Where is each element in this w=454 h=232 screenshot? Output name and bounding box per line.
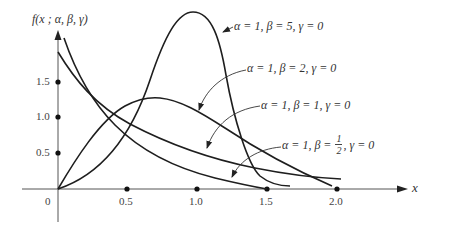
arrow-beta-5 — [223, 27, 233, 32]
annotation-beta-1: α = 1, β = 1, γ = 0 — [261, 98, 350, 113]
fraction-numerator: 1 — [335, 133, 342, 145]
annotation-beta-half-prefix: α = 1, β = — [282, 138, 334, 152]
fraction-one-half: 12 — [335, 133, 342, 156]
annotation-beta-half: α = 1, β = 12, γ = 0 — [282, 133, 374, 156]
chart-canvas — [0, 0, 454, 232]
x-tick-dot-2.0 — [334, 186, 339, 191]
annotation-beta-2: α = 1, β = 2, γ = 0 — [247, 61, 336, 76]
y-axis-label: f(x ; α, β, γ) — [32, 12, 88, 27]
arrow-beta-2 — [199, 70, 246, 110]
axes — [22, 30, 408, 222]
y-tick-label-0.5: 0.5 — [36, 146, 50, 158]
x-tick-label-1.5: 1.5 — [259, 195, 273, 207]
x-tick-label-2.0: 2.0 — [329, 195, 343, 207]
y-tick-label-1.0: 1.0 — [36, 110, 50, 122]
origin-label: 0 — [45, 195, 51, 207]
y-axis-label-text: f(x ; α, β, γ) — [32, 12, 88, 26]
x-axis-label: x — [412, 180, 418, 196]
x-tick-label-0.5: 0.5 — [119, 195, 133, 207]
y-tick-dot-1.5 — [55, 79, 60, 84]
x-tick-dot-0.5 — [124, 186, 129, 191]
fraction-denominator: 2 — [335, 145, 342, 156]
annotation-beta-half-suffix: , γ = 0 — [343, 138, 374, 152]
x-tick-label-1.0: 1.0 — [189, 195, 203, 207]
y-tick-label-1.5: 1.5 — [36, 75, 50, 87]
y-tick-dot-0.5 — [55, 150, 60, 155]
x-axis-arrow-icon — [397, 186, 408, 193]
y-tick-dot-1.0 — [55, 114, 60, 119]
x-tick-dot-1.0 — [194, 186, 199, 191]
annotation-beta-5: α = 1, β = 5, γ = 0 — [234, 19, 323, 34]
y-axis-arrow-icon — [55, 30, 62, 40]
